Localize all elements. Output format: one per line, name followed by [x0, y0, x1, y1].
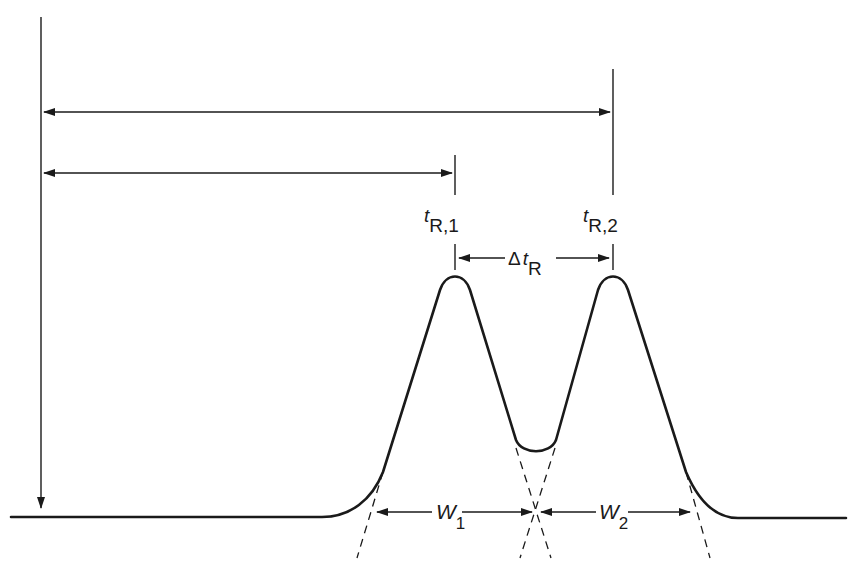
- tangent-peak2-right: [686, 472, 710, 558]
- tangent-peak1-left: [357, 472, 383, 558]
- W2-label: W2: [599, 500, 628, 533]
- chromatogram-diagram: tR,1 tR,2 ΔtR W1 W2: [0, 0, 860, 571]
- tangent-peak1-right: [516, 448, 551, 558]
- chromatogram-trace: [11, 277, 846, 519]
- tangent-peak2-left: [520, 448, 555, 558]
- W1-label: W1: [436, 500, 465, 533]
- tR2-label: tR,2: [583, 205, 618, 236]
- tR1-label: tR,1: [424, 205, 459, 236]
- delta-tR-label: ΔtR: [508, 248, 542, 279]
